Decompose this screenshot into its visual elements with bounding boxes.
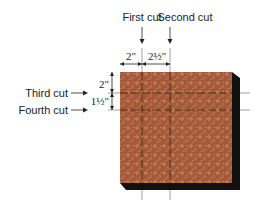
second-cut-label: Second cut [157, 11, 212, 23]
third-cut-arrow-icon [71, 91, 88, 96]
fourth-cut-label: Fourth cut [18, 104, 68, 116]
dimension-v2: 1½" [91, 95, 109, 107]
fabric-square [120, 72, 232, 183]
horizontal-dimension [120, 62, 170, 66]
second-cut-arrow-icon [168, 27, 173, 44]
dimension-h1: 2" [126, 50, 136, 62]
vertical-dimension [110, 72, 114, 110]
first-cut-label: First cut [122, 11, 161, 23]
cutting-diagram: First cut Second cut 2" 2½" 2" 1½" Third… [0, 0, 260, 203]
third-cut-label: Third cut [25, 87, 68, 99]
fourth-cut-arrow-icon [71, 108, 88, 113]
dimension-h2: 2½" [148, 50, 166, 62]
first-cut-arrow-icon [140, 27, 145, 44]
dimension-v1: 2" [99, 78, 109, 90]
